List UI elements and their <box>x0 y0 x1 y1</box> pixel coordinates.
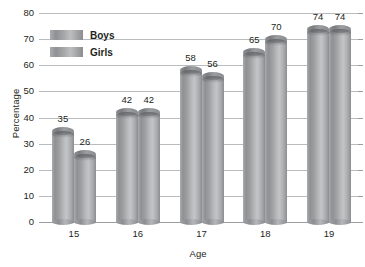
bar-boys-17 <box>180 70 202 222</box>
bar-girls-19 <box>329 29 351 222</box>
bar-boys-18 <box>243 52 265 222</box>
bar-girls-17 <box>202 76 224 222</box>
bar-cap-shade <box>243 52 265 59</box>
bar-bottom <box>243 219 265 225</box>
bar-cap-shade <box>74 154 96 161</box>
bar-bottom <box>180 219 202 225</box>
y-axis-tick <box>358 118 363 119</box>
y-axis-tick-label: 30 <box>6 138 34 149</box>
legend-label-boys: Boys <box>90 30 114 41</box>
y-axis-tick-label: 40 <box>6 112 34 123</box>
y-axis-tick <box>358 91 363 92</box>
y-axis-tick-label: 20 <box>6 164 34 175</box>
x-axis-tick-label: 15 <box>54 228 94 239</box>
bar-bottom <box>52 219 74 225</box>
y-axis-tick-label: 10 <box>6 190 34 201</box>
y-axis-tick <box>358 39 363 40</box>
y-axis-tick-label: 80 <box>6 7 34 18</box>
bar-girls-18 <box>265 39 287 222</box>
bar-girls-15 <box>74 154 96 222</box>
bar-bottom <box>307 219 329 225</box>
bar-bottom <box>329 219 351 225</box>
y-axis-tick <box>358 170 363 171</box>
bar-cap-shade <box>116 112 138 119</box>
bar-cap-shade <box>307 29 329 36</box>
legend-swatch-girls <box>50 47 83 57</box>
bar-value-label: 74 <box>323 11 357 22</box>
x-axis-tick-label: 19 <box>309 228 349 239</box>
bar-bottom <box>74 219 96 225</box>
bar-value-label: 70 <box>259 21 293 32</box>
bar-value-label: 35 <box>46 113 80 124</box>
y-axis-tick-label: 70 <box>6 33 34 44</box>
bar-boys-16 <box>116 112 138 222</box>
legend-item-girls: Girls <box>50 45 114 59</box>
y-axis-tick-label: 0 <box>6 216 34 227</box>
legend-label-girls: Girls <box>90 47 113 58</box>
bar-value-label: 65 <box>237 34 271 45</box>
bar-bottom <box>202 219 224 225</box>
y-axis-tick <box>358 196 363 197</box>
bar-cap-shade <box>138 112 160 119</box>
bar-value-label: 42 <box>132 94 166 105</box>
bar-cap-shade <box>180 70 202 77</box>
bar-boys-19 <box>307 29 329 222</box>
legend-item-boys: Boys <box>50 28 114 42</box>
bar-cap-shade <box>329 29 351 36</box>
bar-chart: Percentage Age Boys Girls 01020304050607… <box>0 0 365 267</box>
y-axis-tick <box>358 222 363 223</box>
y-axis-tick <box>358 65 363 66</box>
y-axis-tick <box>358 13 363 14</box>
bar-bottom <box>116 219 138 225</box>
x-axis-tick-label: 17 <box>182 228 222 239</box>
bar-cap-shade <box>202 76 224 83</box>
legend: Boys Girls <box>50 28 114 62</box>
bar-value-label: 56 <box>196 58 230 69</box>
x-axis-title: Age <box>38 248 358 259</box>
y-axis-tick-label: 60 <box>6 59 34 70</box>
bar-value-label: 26 <box>68 136 102 147</box>
bar-bottom <box>265 219 287 225</box>
x-axis-tick-label: 16 <box>118 228 158 239</box>
x-axis-tick-label: 18 <box>245 228 285 239</box>
bar-bottom <box>138 219 160 225</box>
y-axis-tick <box>358 144 363 145</box>
bar-girls-16 <box>138 112 160 222</box>
legend-swatch-boys <box>50 30 83 40</box>
y-axis-tick-label: 50 <box>6 85 34 96</box>
